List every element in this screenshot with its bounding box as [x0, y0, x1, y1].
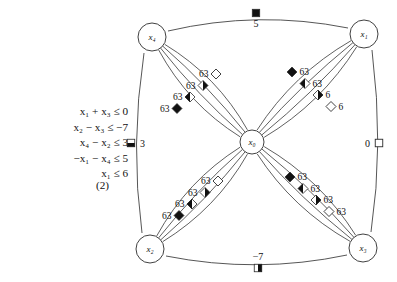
edge-marker[interactable]: 63	[175, 199, 197, 209]
marker-label: 63	[311, 184, 321, 194]
marker-label: 63	[162, 211, 172, 221]
edge-marker[interactable]: 63	[160, 104, 182, 114]
edge-marker[interactable]: 63	[298, 184, 320, 194]
marker-cluster-upper-left: 63636363	[160, 69, 221, 114]
edge-marker[interactable]: 63	[285, 172, 307, 182]
marker-label: 63	[324, 195, 334, 205]
marker-label: 63	[337, 207, 347, 217]
marker-label: 63	[199, 69, 209, 79]
marker-label: 63	[300, 67, 310, 77]
diamond-marker-half-fill	[185, 92, 190, 102]
outer-edge-marker-x2-x3[interactable]: −7	[253, 251, 264, 272]
node-label-x1: x₁	[359, 29, 367, 39]
marker-label: 63	[298, 172, 308, 182]
node-layer: x₄x₁x₀x₂x₃	[136, 20, 378, 263]
diamond-marker-empty	[211, 69, 221, 79]
marker-label: 0	[365, 138, 370, 149]
marker-label: 63	[175, 199, 185, 209]
graph-node-x0[interactable]: x₀	[240, 130, 264, 154]
node-label-x2: x₂	[145, 244, 153, 254]
edge-marker[interactable]: 63	[300, 79, 322, 89]
edge-marker[interactable]: 63	[173, 92, 195, 102]
diamond-marker-full	[172, 104, 182, 114]
diamond-marker-empty	[326, 102, 336, 112]
edge-marker[interactable]: 63	[324, 207, 346, 217]
marker-label: 63	[201, 176, 211, 186]
diamond-marker-half-fill	[298, 184, 303, 194]
graph-node-x2[interactable]: x₂	[136, 235, 164, 263]
diamond-marker-half-fill	[187, 199, 192, 209]
edge-marker[interactable]: 63	[199, 69, 221, 79]
spoke-edge-x3-x0-2	[262, 149, 354, 237]
edge-marker[interactable]: 63	[287, 67, 309, 77]
diamond-marker-half-fill	[316, 195, 321, 205]
marker-cluster-upper-right: 636366	[287, 67, 344, 112]
diamond-marker-full	[287, 67, 297, 77]
marker-label: 63	[188, 188, 198, 198]
marker-label: 5	[254, 18, 259, 29]
graph-node-x4[interactable]: x₄	[138, 23, 166, 51]
marker-label: 63	[186, 81, 196, 91]
edge-marker[interactable]: 63	[188, 188, 210, 198]
diamond-marker-half-fill	[205, 188, 210, 198]
marker-label: −7	[253, 251, 264, 262]
marker-label: 63	[173, 92, 183, 102]
square-marker-half-fill	[127, 143, 135, 147]
constraint-graph: 530−7636363636363666363636363636363 x₄x₁…	[0, 0, 397, 282]
edge-marker[interactable]: 63	[186, 81, 208, 91]
spoke-edge-x1-x0-1	[262, 45, 355, 135]
diamond-marker-full	[174, 211, 184, 221]
node-label-x3: x₃	[358, 243, 366, 253]
diamond-marker-empty	[324, 207, 334, 217]
spoke-edge-x2-x0-1	[159, 150, 243, 238]
marker-label: 3	[140, 138, 145, 149]
outer-edge-marker-x4-x1[interactable]: 5	[252, 9, 260, 29]
spoke-edge-x3-x0-1	[260, 152, 352, 240]
outer-edge-marker-x1-x3[interactable]: 0	[365, 138, 383, 149]
square-marker-full	[252, 9, 260, 17]
marker-cluster-lower-right: 63636363	[285, 172, 346, 217]
node-label-x0: x₀	[247, 137, 255, 147]
graph-node-x1[interactable]: x₁	[350, 20, 378, 48]
diamond-marker-empty	[213, 176, 223, 186]
marker-label: 6	[326, 90, 331, 100]
edge-marker[interactable]: 6	[326, 102, 344, 112]
marker-label: 63	[160, 104, 170, 114]
edge-marker[interactable]: 63	[162, 211, 184, 221]
node-label-x4: x₄	[147, 32, 155, 42]
marker-label: 63	[313, 79, 323, 89]
graph-node-x3[interactable]: x₃	[349, 234, 377, 262]
marker-label: 6	[339, 102, 344, 112]
square-marker-empty	[375, 139, 383, 147]
square-marker-half-fill	[258, 264, 262, 272]
